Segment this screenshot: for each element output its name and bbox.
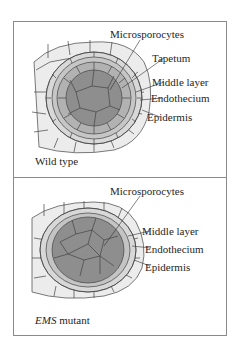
caption-ems-italic: EMS: [35, 314, 56, 326]
panel-wild-type: Microsporocytes Tapetum Middle layer End…: [14, 22, 226, 177]
label-endothecium: Endothecium: [151, 92, 210, 104]
label-microsporocytes: Microsporocytes: [110, 185, 184, 197]
caption-ems-rest: mutant: [56, 314, 89, 326]
label-epidermis: Epidermis: [145, 261, 190, 273]
label-middle-layer: Middle layer: [142, 225, 199, 237]
label-tapetum: Tapetum: [152, 52, 190, 64]
caption-ems-mutant: EMS mutant: [35, 314, 90, 326]
panel-ems-mutant: Microsporocytes Middle layer Endothecium…: [14, 178, 226, 335]
label-epidermis: Epidermis: [147, 111, 192, 123]
label-microsporocytes: Microsporocytes: [110, 28, 184, 40]
label-endothecium: Endothecium: [145, 243, 204, 255]
ems-mutant-anther-illustration: [14, 178, 226, 335]
caption-wild-type: Wild type: [35, 155, 78, 167]
label-middle-layer: Middle layer: [152, 76, 209, 88]
